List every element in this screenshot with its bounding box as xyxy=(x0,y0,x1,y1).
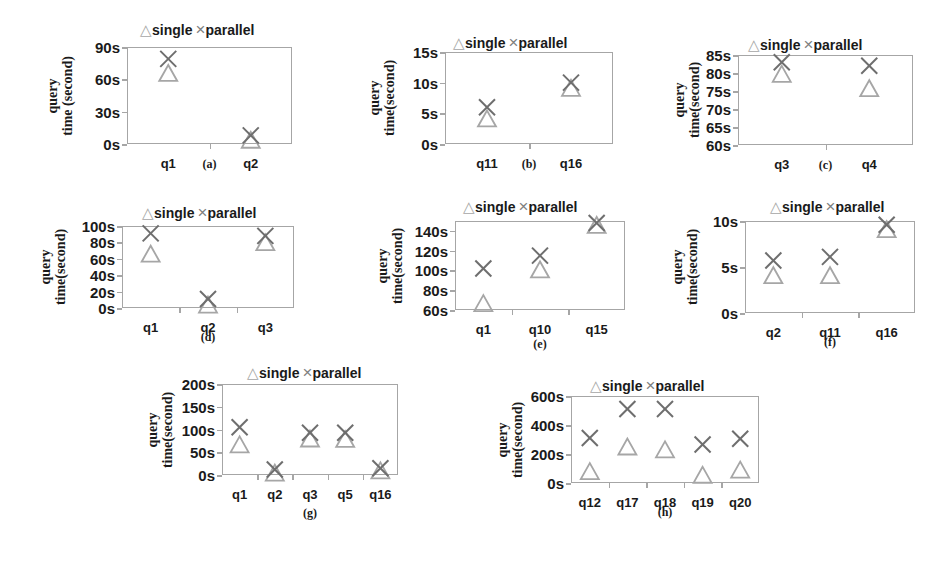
cross-icon xyxy=(619,401,635,417)
triangle-icon xyxy=(618,438,636,454)
triangle-icon xyxy=(656,441,674,457)
data-markers xyxy=(0,0,949,562)
cross-icon xyxy=(695,437,711,453)
cross-icon xyxy=(732,431,748,447)
triangle-icon xyxy=(694,467,712,483)
cross-icon xyxy=(657,401,673,417)
cross-icon xyxy=(582,430,598,446)
triangle-icon xyxy=(731,462,749,478)
triangle-icon xyxy=(581,463,599,479)
